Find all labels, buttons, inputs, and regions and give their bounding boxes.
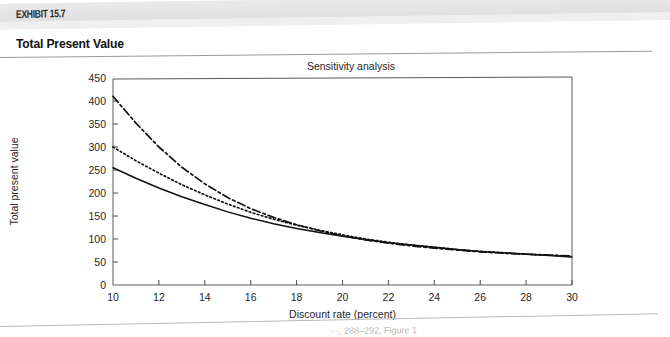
x-tick-label: 28 (520, 291, 532, 303)
y-tick-label: 150 (88, 210, 106, 222)
x-tick-label: 24 (428, 291, 440, 303)
y-tick-label: 300 (88, 141, 106, 153)
x-tick-label: 22 (383, 291, 395, 303)
x-tick-label: 16 (245, 291, 257, 303)
x-tick-label: 18 (291, 291, 303, 303)
x-tick-label: 20 (337, 291, 349, 303)
y-tick-label: 100 (88, 233, 106, 245)
x-tick-label: 26 (474, 291, 486, 303)
y-tick-label: 400 (88, 95, 106, 107)
series-line-high-estimate (113, 96, 572, 256)
y-axis-label: Total present value (8, 137, 20, 225)
source-note: ···, 288–292, Figure 1 (330, 325, 417, 336)
title-divider (0, 51, 652, 58)
y-tick-label: 50 (94, 256, 106, 268)
exhibit-label: EXHIBIT 15.7 (16, 7, 65, 20)
y-tick-label: 200 (88, 187, 106, 199)
x-tick-label: 12 (153, 291, 165, 303)
series-line-low-estimate (113, 168, 572, 257)
sensitivity-analysis-chart: 0501001502002503003504004501012141618202… (0, 58, 652, 320)
y-tick-label: 450 (88, 72, 106, 84)
series-line-middle-estimate (113, 147, 572, 256)
chart-container: Sensitivity analysis 0501001502002503003… (0, 58, 652, 320)
page-title: Total Present Value (16, 36, 124, 51)
y-tick-label: 250 (88, 164, 106, 176)
y-tick-label: 350 (88, 118, 106, 130)
y-tick-label: 0 (100, 279, 106, 291)
x-tick-label: 10 (107, 291, 119, 303)
x-tick-label: 30 (566, 291, 578, 303)
x-tick-label: 14 (199, 291, 211, 303)
